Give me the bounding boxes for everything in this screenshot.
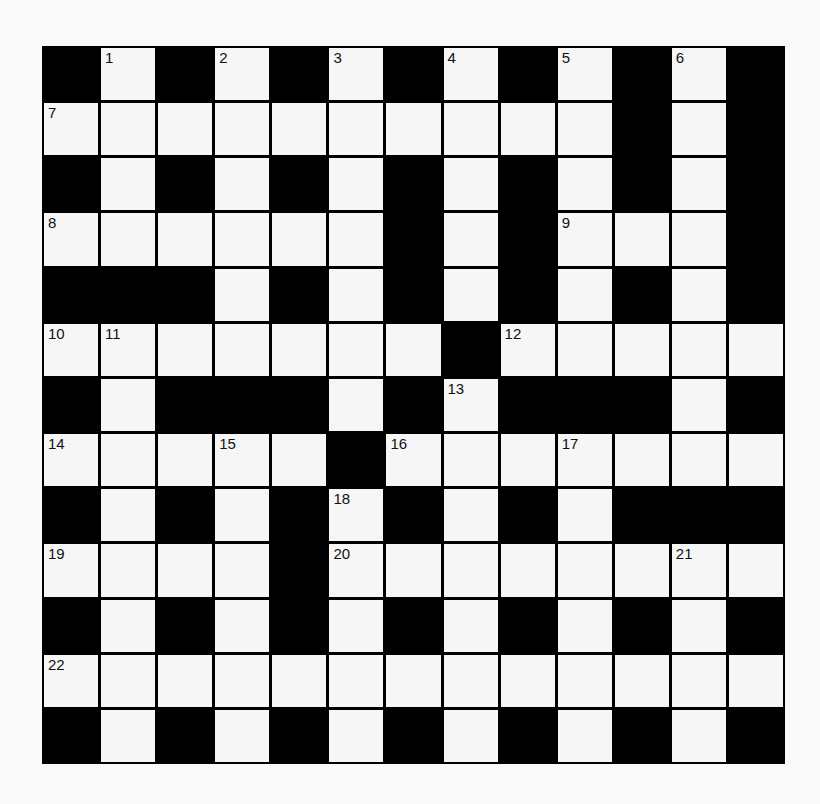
crossword-cell[interactable] <box>615 324 669 376</box>
crossword-cell[interactable] <box>329 213 383 265</box>
crossword-cell[interactable] <box>329 379 383 431</box>
crossword-cell[interactable] <box>158 544 212 596</box>
crossword-cell[interactable] <box>444 655 498 707</box>
crossword-cell[interactable] <box>615 434 669 486</box>
crossword-cell[interactable]: 15 <box>215 434 269 486</box>
crossword-cell[interactable]: 19 <box>44 544 98 596</box>
crossword-cell[interactable] <box>672 600 726 652</box>
crossword-cell[interactable] <box>444 158 498 210</box>
crossword-cell[interactable] <box>272 655 326 707</box>
crossword-cell[interactable] <box>672 103 726 155</box>
crossword-cell[interactable] <box>101 434 155 486</box>
crossword-cell[interactable] <box>272 434 326 486</box>
crossword-cell[interactable] <box>158 103 212 155</box>
crossword-cell[interactable] <box>444 103 498 155</box>
crossword-cell[interactable] <box>101 544 155 596</box>
crossword-cell[interactable] <box>672 324 726 376</box>
crossword-cell[interactable]: 12 <box>501 324 555 376</box>
crossword-cell[interactable] <box>158 434 212 486</box>
crossword-cell[interactable] <box>444 213 498 265</box>
crossword-cell[interactable] <box>501 434 555 486</box>
crossword-cell[interactable]: 5 <box>558 48 612 100</box>
crossword-cell[interactable] <box>729 544 783 596</box>
crossword-cell[interactable] <box>329 103 383 155</box>
crossword-cell[interactable] <box>444 269 498 321</box>
crossword-cell[interactable] <box>215 324 269 376</box>
crossword-cell[interactable]: 18 <box>329 489 383 541</box>
crossword-cell[interactable] <box>101 379 155 431</box>
crossword-cell[interactable] <box>215 213 269 265</box>
crossword-cell[interactable] <box>558 544 612 596</box>
crossword-cell[interactable] <box>444 434 498 486</box>
crossword-cell[interactable] <box>329 324 383 376</box>
crossword-cell[interactable] <box>215 489 269 541</box>
crossword-cell[interactable] <box>729 324 783 376</box>
crossword-cell[interactable]: 22 <box>44 655 98 707</box>
crossword-cell[interactable] <box>558 710 612 762</box>
crossword-cell[interactable] <box>101 213 155 265</box>
crossword-cell[interactable] <box>558 103 612 155</box>
crossword-cell[interactable] <box>558 324 612 376</box>
crossword-cell[interactable] <box>558 269 612 321</box>
crossword-cell[interactable] <box>215 103 269 155</box>
crossword-cell[interactable]: 14 <box>44 434 98 486</box>
crossword-cell[interactable]: 16 <box>386 434 440 486</box>
crossword-cell[interactable] <box>386 103 440 155</box>
crossword-cell[interactable] <box>615 544 669 596</box>
crossword-cell[interactable] <box>672 434 726 486</box>
crossword-cell[interactable]: 7 <box>44 103 98 155</box>
crossword-cell[interactable] <box>444 544 498 596</box>
crossword-cell[interactable]: 1 <box>101 48 155 100</box>
crossword-cell[interactable] <box>215 158 269 210</box>
crossword-cell[interactable]: 8 <box>44 213 98 265</box>
crossword-cell[interactable]: 9 <box>558 213 612 265</box>
crossword-cell[interactable]: 21 <box>672 544 726 596</box>
crossword-cell[interactable] <box>215 655 269 707</box>
crossword-cell[interactable] <box>672 269 726 321</box>
crossword-cell[interactable] <box>386 324 440 376</box>
crossword-cell[interactable] <box>158 324 212 376</box>
crossword-cell[interactable]: 11 <box>101 324 155 376</box>
crossword-cell[interactable]: 17 <box>558 434 612 486</box>
crossword-cell[interactable] <box>101 103 155 155</box>
crossword-cell[interactable] <box>329 158 383 210</box>
crossword-cell[interactable] <box>558 600 612 652</box>
crossword-cell[interactable] <box>329 600 383 652</box>
crossword-cell[interactable]: 2 <box>215 48 269 100</box>
crossword-cell[interactable] <box>215 600 269 652</box>
crossword-cell[interactable] <box>386 544 440 596</box>
crossword-cell[interactable] <box>444 600 498 652</box>
crossword-cell[interactable] <box>101 489 155 541</box>
crossword-cell[interactable] <box>272 103 326 155</box>
crossword-cell[interactable] <box>272 324 326 376</box>
crossword-cell[interactable] <box>444 489 498 541</box>
crossword-cell[interactable]: 20 <box>329 544 383 596</box>
crossword-cell[interactable] <box>215 269 269 321</box>
crossword-cell[interactable] <box>672 710 726 762</box>
crossword-cell[interactable] <box>272 213 326 265</box>
crossword-cell[interactable]: 4 <box>444 48 498 100</box>
crossword-cell[interactable] <box>672 158 726 210</box>
crossword-cell[interactable] <box>101 600 155 652</box>
crossword-cell[interactable] <box>672 213 726 265</box>
crossword-cell[interactable] <box>729 655 783 707</box>
crossword-cell[interactable] <box>158 213 212 265</box>
crossword-cell[interactable]: 13 <box>444 379 498 431</box>
crossword-cell[interactable] <box>558 489 612 541</box>
crossword-cell[interactable] <box>501 544 555 596</box>
crossword-cell[interactable] <box>101 655 155 707</box>
crossword-cell[interactable] <box>386 655 440 707</box>
crossword-cell[interactable] <box>101 158 155 210</box>
crossword-cell[interactable]: 10 <box>44 324 98 376</box>
crossword-cell[interactable] <box>158 655 212 707</box>
crossword-cell[interactable] <box>615 655 669 707</box>
crossword-cell[interactable] <box>729 434 783 486</box>
crossword-cell[interactable] <box>501 655 555 707</box>
crossword-cell[interactable] <box>501 103 555 155</box>
crossword-cell[interactable]: 6 <box>672 48 726 100</box>
crossword-cell[interactable] <box>215 710 269 762</box>
crossword-cell[interactable] <box>101 710 155 762</box>
crossword-cell[interactable] <box>329 269 383 321</box>
crossword-cell[interactable] <box>444 710 498 762</box>
crossword-cell[interactable] <box>558 158 612 210</box>
